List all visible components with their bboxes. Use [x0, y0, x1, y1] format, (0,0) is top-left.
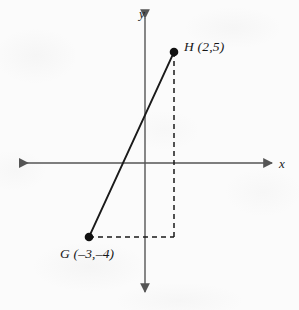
point-g-marker — [85, 233, 94, 242]
coordinate-plot-svg — [0, 0, 299, 310]
segment-gh — [89, 52, 174, 237]
point-g-label: G (–3,–4) — [60, 246, 114, 262]
x-axis-label: x — [279, 156, 285, 172]
coordinate-plane-figure: x y H (2,5) G (–3,–4) — [0, 0, 299, 310]
y-axis-label: y — [139, 6, 145, 22]
point-h-label: H (2,5) — [184, 39, 224, 55]
point-h-marker — [170, 48, 179, 57]
